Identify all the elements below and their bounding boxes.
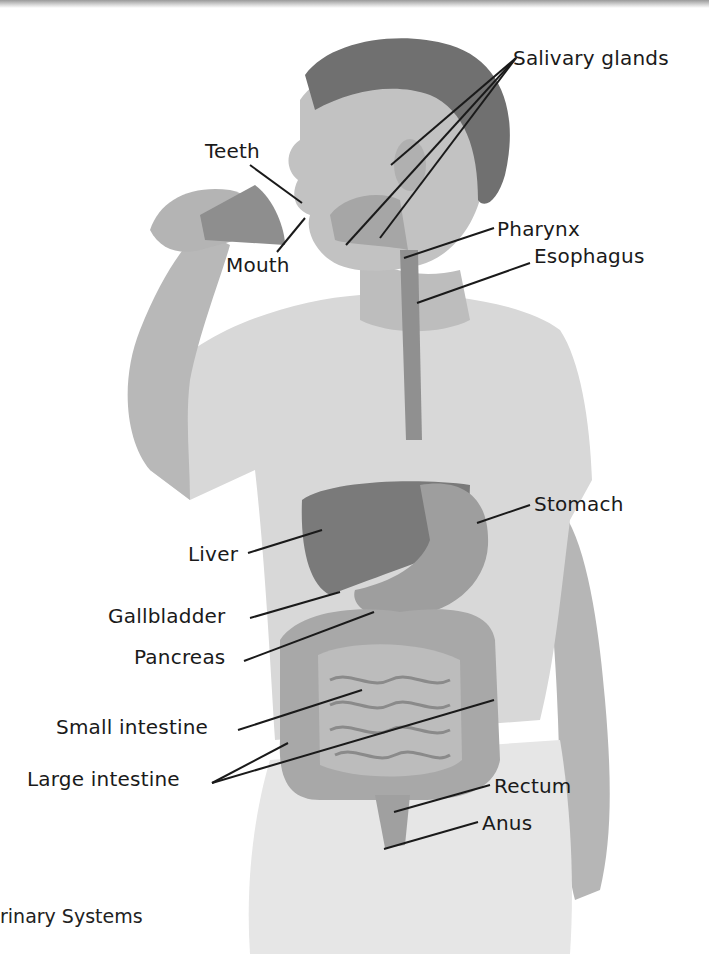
label-large-intestine: Large intestine xyxy=(27,768,180,790)
label-gallbladder: Gallbladder xyxy=(108,605,226,627)
page-caption-fragment: rinary Systems xyxy=(0,905,143,927)
label-pharynx: Pharynx xyxy=(497,218,580,240)
label-esophagus: Esophagus xyxy=(534,245,645,267)
label-liver: Liver xyxy=(188,543,238,565)
digestive-system-illustration xyxy=(0,0,709,954)
label-salivary-glands: Salivary glands xyxy=(513,47,669,69)
label-anus: Anus xyxy=(482,812,532,834)
label-mouth: Mouth xyxy=(226,254,290,276)
label-rectum: Rectum xyxy=(494,775,572,797)
label-stomach: Stomach xyxy=(534,493,624,515)
label-pancreas: Pancreas xyxy=(134,646,225,668)
label-small-intestine: Small intestine xyxy=(56,716,208,738)
label-teeth: Teeth xyxy=(205,140,260,162)
